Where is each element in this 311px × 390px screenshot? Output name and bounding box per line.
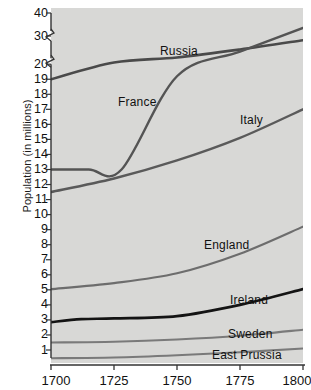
x-tick-1775: 1775	[226, 373, 255, 388]
x-axis-tick-labels: 17001725175017751800	[0, 369, 311, 390]
x-tick-1800: 1800	[283, 373, 311, 388]
x-tick-1725: 1725	[100, 373, 129, 388]
x-tick-1750: 1750	[163, 373, 192, 388]
chart-figure: Population (in millions) 123456789101112…	[0, 0, 311, 390]
x-tick-1700: 1700	[42, 373, 71, 388]
chart-axes	[0, 0, 311, 390]
